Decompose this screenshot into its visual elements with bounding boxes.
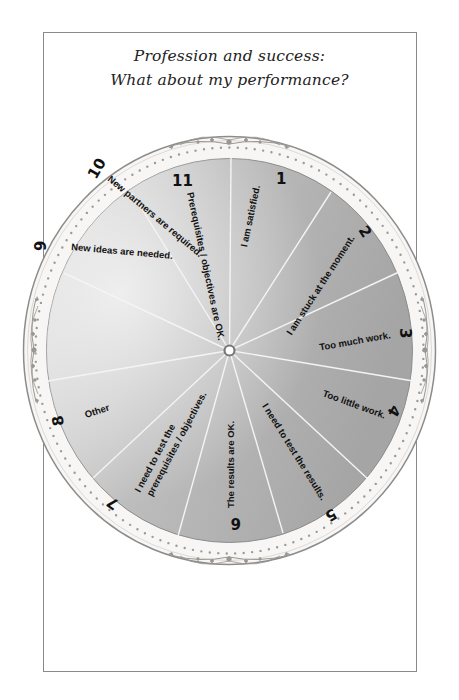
segment-number: 10 — [84, 155, 110, 182]
wheel-hub — [225, 346, 235, 356]
segment-number: 9 — [32, 241, 50, 251]
decision-wheel: 1 I am satisfied. 2 I am stuck at the mo… — [0, 0, 459, 700]
segment-label: The results are OK. — [225, 421, 236, 508]
segment-number: 3 — [396, 328, 414, 338]
segment-number: 11 — [172, 172, 193, 190]
segment-number: 6 — [231, 514, 241, 532]
segment-number: 1 — [276, 170, 286, 188]
